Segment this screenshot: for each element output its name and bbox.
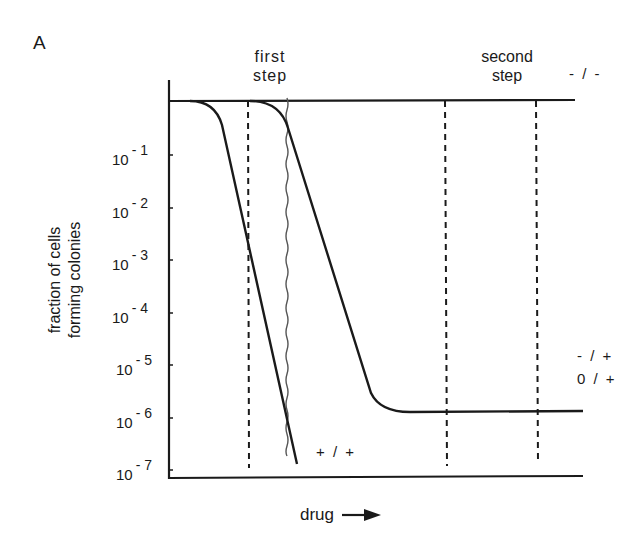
series-plateau-curve	[250, 101, 583, 412]
plot-area	[0, 0, 643, 556]
series-sensitive-curve	[190, 101, 297, 464]
x-axis-label-text: drug	[300, 505, 334, 525]
first-step-dashed-line	[248, 101, 249, 468]
x-axis-label: drug	[300, 505, 382, 525]
second-step-dashed-line-2	[536, 101, 538, 464]
first-step-wavy-line	[286, 98, 288, 456]
x-axis-line	[169, 476, 583, 478]
series-resistant-line	[169, 100, 575, 101]
right-arrow-icon	[342, 508, 382, 522]
